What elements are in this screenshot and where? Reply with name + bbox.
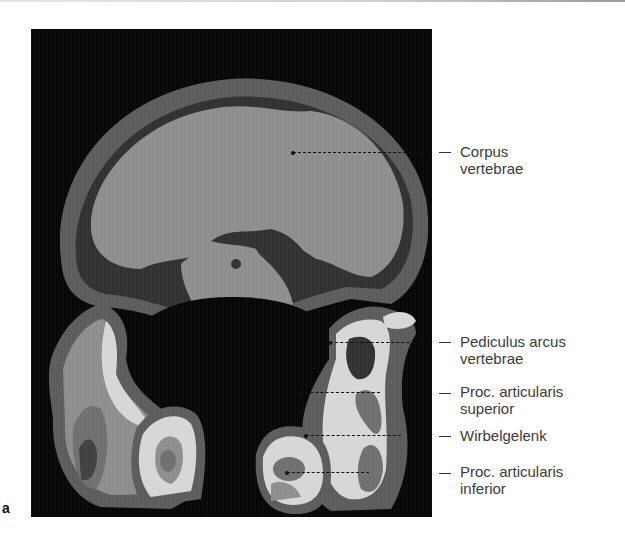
label-line: Corpus xyxy=(460,143,523,160)
leader-line-corpus xyxy=(293,152,431,153)
leader-line-proc-inf xyxy=(287,472,369,473)
label-line: Wirbelgelenk xyxy=(460,427,547,444)
label-line: Pediculus arcus xyxy=(460,333,566,350)
vertebra-ct-illustration xyxy=(31,29,432,517)
panel-letter: a xyxy=(2,500,10,516)
page-top-rule xyxy=(0,0,625,2)
label-corpus-vertebrae: Corpus vertebrae xyxy=(460,143,523,177)
ct-vertebra-image xyxy=(31,29,432,517)
label-pediculus-arcus-vertebrae: Pediculus arcus vertebrae xyxy=(460,333,566,367)
label-tick-proc-inf xyxy=(439,473,451,474)
leader-line-wirbelgelenk xyxy=(306,435,401,436)
label-line: Proc. articularis xyxy=(460,383,563,400)
label-proc-articularis-inferior: Proc. articularis inferior xyxy=(460,463,563,497)
leader-line-proc-sup xyxy=(300,392,380,393)
label-line: vertebrae xyxy=(460,350,566,367)
label-line: inferior xyxy=(460,480,563,497)
label-tick-corpus xyxy=(439,152,451,153)
label-tick-proc-sup xyxy=(439,393,451,394)
label-line: Proc. articularis xyxy=(460,463,563,480)
label-tick-wirbelgelenk xyxy=(439,436,451,437)
label-line: vertebrae xyxy=(460,160,523,177)
label-line: superior xyxy=(460,400,563,417)
label-wirbelgelenk: Wirbelgelenk xyxy=(460,427,547,444)
label-tick-pediculus xyxy=(439,342,451,343)
leader-line-pediculus xyxy=(330,342,430,343)
label-proc-articularis-superior: Proc. articularis superior xyxy=(460,383,563,417)
